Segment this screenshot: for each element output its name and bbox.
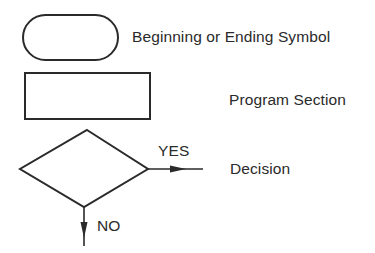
yes-arrow (148, 166, 203, 173)
no-label: NO (97, 218, 120, 234)
terminal-symbol-label: Beginning or Ending Symbol (132, 29, 330, 45)
process-symbol (25, 73, 150, 119)
yes-label: YES (158, 143, 189, 159)
arrowhead-down-icon (81, 222, 88, 238)
decision-symbol (20, 130, 148, 207)
no-arrow (81, 207, 88, 246)
decision-symbol-label: Decision (230, 161, 290, 177)
arrowhead-right-icon (170, 166, 186, 173)
terminal-symbol (23, 15, 118, 60)
process-symbol-label: Program Section (229, 92, 346, 108)
